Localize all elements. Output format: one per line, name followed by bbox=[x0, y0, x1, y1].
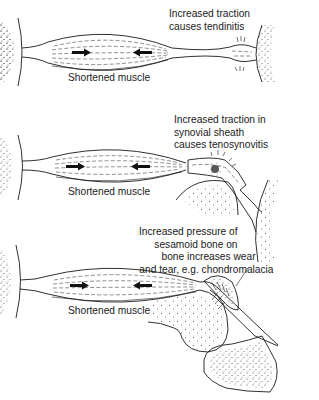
inflammation-ticks bbox=[235, 36, 245, 71]
arrow-right-icon bbox=[72, 49, 91, 57]
femur-condyle bbox=[148, 290, 228, 352]
right-bone bbox=[256, 25, 275, 82]
annotation-line: Increased traction bbox=[169, 8, 250, 21]
arrow-left-icon bbox=[131, 163, 150, 171]
annotation-tendinitis: Increased traction causes tendinitis bbox=[169, 8, 250, 33]
muscle-shortening-diagram bbox=[0, 0, 319, 400]
annotation-line: Increased traction in bbox=[174, 114, 268, 127]
arrow-left-icon bbox=[133, 49, 152, 57]
left-bone bbox=[0, 135, 23, 200]
annotation-line: Increased pressure of bbox=[139, 226, 274, 239]
annotation-tenosynovitis: Increased traction in synovial sheath ca… bbox=[174, 114, 268, 152]
left-bone bbox=[0, 245, 21, 318]
muscle-belly bbox=[48, 34, 172, 70]
annotation-chondromalacia: Increased pressure of sesamoid bone on b… bbox=[139, 226, 274, 276]
muscle-label: Shortened muscle bbox=[68, 72, 150, 85]
arrow-right-icon bbox=[70, 282, 89, 290]
annotation-line: sesamoid bone on bbox=[139, 239, 274, 252]
muscle-label: Shortened muscle bbox=[68, 186, 150, 199]
arrow-left-icon bbox=[133, 282, 152, 290]
left-bone bbox=[0, 18, 22, 86]
annotation-line: and tear, e.g. chondromalacia bbox=[139, 264, 274, 277]
annotation-line: synovial sheath bbox=[174, 127, 268, 140]
annotation-line: bone increases wear bbox=[139, 251, 274, 264]
muscle-label: Shortened muscle bbox=[68, 305, 150, 318]
annotation-line: causes tenosynovitis bbox=[174, 139, 268, 152]
arrow-right-icon bbox=[66, 163, 85, 171]
annotation-line: causes tendinitis bbox=[169, 21, 250, 34]
